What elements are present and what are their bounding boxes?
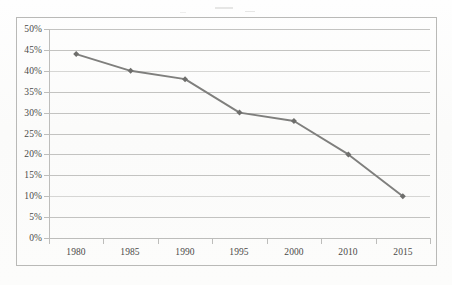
data-point-marker — [128, 68, 134, 74]
series-line-path — [76, 54, 403, 196]
series-markers — [73, 51, 406, 199]
chart-plot-wrapper: 50% 45% 40% 35% 30% 25% 20% 15% 10% 5% 0… — [0, 0, 452, 285]
data-point-marker — [73, 51, 79, 57]
chart-screenshot: 50% 45% 40% 35% 30% 25% 20% 15% 10% 5% 0… — [0, 0, 452, 285]
data-series-layer — [0, 0, 452, 285]
